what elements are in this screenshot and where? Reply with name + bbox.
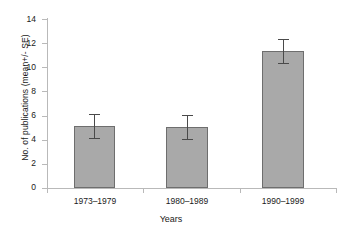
y-tick-label-12: 12 bbox=[14, 39, 36, 48]
y-tick-label-6: 6 bbox=[14, 111, 36, 120]
x-axis-line bbox=[47, 188, 337, 189]
error-bar-cap-upper-1980-1989 bbox=[182, 115, 193, 116]
error-bar-cap-lower-1980-1989 bbox=[182, 139, 193, 140]
error-bar-stem-1990-1999 bbox=[283, 39, 284, 63]
x-tick-mark-3 bbox=[336, 188, 337, 193]
x-tick-mark-1 bbox=[143, 188, 144, 193]
y-tick-label-14: 14 bbox=[14, 15, 36, 24]
bar-1990-1999 bbox=[262, 51, 304, 188]
error-bar-cap-lower-1990-1999 bbox=[278, 63, 289, 64]
bar-chart-figure: No. of publications (mean+/- SE) 14 12 1… bbox=[0, 0, 342, 237]
y-tick-label-4: 4 bbox=[14, 135, 36, 144]
error-bar-stem-1980-1989 bbox=[187, 115, 188, 139]
x-category-label-1: 1980–1989 bbox=[147, 196, 227, 206]
error-bar-stem-1973-1979 bbox=[94, 114, 95, 138]
y-tick-label-10: 10 bbox=[14, 63, 36, 72]
error-bar-cap-upper-1990-1999 bbox=[278, 39, 289, 40]
x-tick-mark-0 bbox=[47, 188, 48, 193]
x-axis-title: Years bbox=[0, 214, 342, 225]
y-tick-label-2: 2 bbox=[14, 159, 36, 168]
x-category-label-2: 1990–1999 bbox=[243, 196, 323, 206]
error-bar-cap-lower-1973-1979 bbox=[89, 138, 100, 139]
y-axis-line bbox=[47, 18, 48, 189]
error-bar-cap-upper-1973-1979 bbox=[89, 114, 100, 115]
x-tick-mark-2 bbox=[240, 188, 241, 193]
x-category-label-0: 1973–1979 bbox=[55, 196, 135, 206]
y-tick-label-8: 8 bbox=[14, 87, 36, 96]
y-tick-label-0: 0 bbox=[14, 183, 36, 192]
